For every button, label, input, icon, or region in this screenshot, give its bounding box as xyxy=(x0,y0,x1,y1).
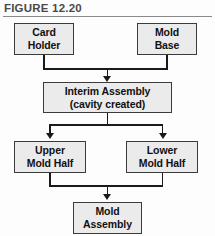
flow-node-card-holder: Card Holder xyxy=(14,23,74,55)
node-label-line2: Assembly xyxy=(83,218,132,231)
connector-merge-bar-top xyxy=(43,68,168,70)
figure-rule-divider xyxy=(3,16,212,17)
node-label-line1: Mold xyxy=(95,205,119,218)
flow-node-upper-mold-half: Upper Mold Half xyxy=(14,141,86,173)
flow-node-lower-mold-half: Lower Mold Half xyxy=(126,141,198,173)
node-label-line2: Base xyxy=(155,39,180,52)
flow-node-mold-base: Mold Base xyxy=(137,23,197,55)
node-label-line1: Lower xyxy=(147,144,177,157)
connector-mold-base-stub xyxy=(166,55,168,69)
node-label-line1: Upper xyxy=(35,144,65,157)
flow-node-interim-assembly: Interim Assembly (cavity created) xyxy=(43,82,172,113)
node-label-line1: Interim Assembly xyxy=(65,85,151,98)
arrow-to-mold-assembly xyxy=(103,194,111,200)
flow-node-mold-assembly: Mold Assembly xyxy=(73,202,142,234)
node-label-line2: (cavity created) xyxy=(70,98,145,111)
arrow-to-upper-mold-half xyxy=(46,133,54,139)
arrow-to-lower-mold-half xyxy=(159,133,167,139)
node-label-line2: Mold Half xyxy=(27,157,73,170)
node-label-line1: Mold xyxy=(155,26,179,39)
node-label-line2: Mold Half xyxy=(139,157,185,170)
node-label-line1: Card xyxy=(32,26,56,39)
connector-card-holder-stub xyxy=(43,55,45,69)
node-label-line2: Holder xyxy=(28,39,61,52)
connector-split-bar xyxy=(49,124,163,126)
figure-container: FIGURE 12.20 Card Holder Mold Base Inter… xyxy=(0,0,215,236)
figure-label: FIGURE 12.20 xyxy=(4,2,82,14)
